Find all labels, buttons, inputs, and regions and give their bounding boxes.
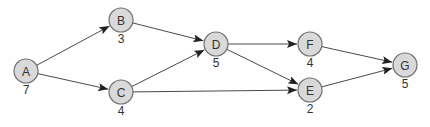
edge-f-g	[322, 47, 393, 63]
edge-c-d	[132, 50, 205, 87]
activity-network-diagram: A7B3C4D5E2F4G5	[0, 0, 430, 127]
node-label: E	[306, 84, 314, 98]
node-weight: 4	[307, 56, 314, 70]
edge-c-e	[133, 90, 297, 92]
node-weight: 7	[23, 83, 30, 97]
node-weight: 2	[307, 102, 314, 116]
edge-a-c	[38, 74, 109, 90]
edge-a-b	[37, 26, 110, 65]
edge-e-g	[322, 68, 393, 87]
node-label: B	[117, 14, 125, 28]
node-weight: 5	[213, 56, 220, 70]
node-c: C4	[109, 80, 133, 118]
nodes: A7B3C4D5E2F4G5	[14, 8, 417, 118]
node-g: G5	[393, 53, 417, 91]
node-weight: 3	[118, 32, 125, 46]
node-d: D5	[204, 32, 228, 70]
node-a: A7	[14, 59, 38, 97]
node-label: A	[22, 65, 30, 79]
node-label: D	[212, 38, 221, 52]
node-weight: 4	[118, 104, 125, 118]
node-e: E2	[298, 78, 322, 116]
edge-b-d	[133, 23, 204, 41]
node-f: F4	[298, 32, 322, 70]
edge-d-e	[227, 49, 298, 84]
node-label: F	[306, 38, 313, 52]
node-label: C	[117, 86, 126, 100]
node-b: B3	[109, 8, 133, 46]
node-label: G	[400, 59, 409, 73]
node-weight: 5	[402, 77, 409, 91]
